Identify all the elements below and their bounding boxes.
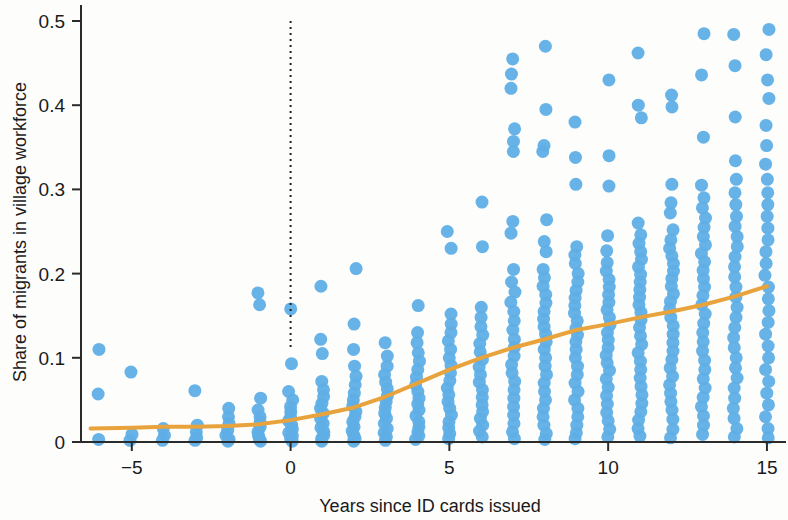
scatter-point: [476, 196, 489, 209]
scatter-point: [665, 89, 678, 102]
scatter-point: [760, 48, 773, 61]
scatter-point: [253, 298, 266, 311]
scatter-point: [760, 119, 773, 132]
scatter-point: [536, 145, 549, 158]
scatter-point: [505, 227, 518, 240]
scatter-point: [698, 27, 711, 40]
x-tick-label: 0: [285, 457, 296, 478]
x-axis-title: Years since ID cards issued: [319, 496, 540, 516]
scatter-point: [697, 131, 710, 144]
scatter-point: [569, 178, 582, 191]
scatter-point: [506, 215, 519, 228]
scatter-point: [539, 103, 552, 116]
y-tick-label: 0.4: [39, 95, 66, 116]
scatter-point: [762, 23, 775, 36]
scatter-point: [251, 286, 264, 299]
scatter-point: [759, 363, 772, 376]
scatter-point: [760, 139, 773, 152]
scatter-point: [729, 198, 742, 211]
scatter-point: [189, 434, 202, 447]
scatter-point: [730, 173, 743, 186]
scatter-point: [762, 316, 775, 329]
scatter-point: [729, 110, 742, 123]
scatter-point: [632, 217, 645, 230]
scatter-point: [761, 186, 774, 199]
scatter-point: [759, 328, 772, 341]
y-tick-label: 0.2: [39, 264, 65, 285]
x-tick-label: 15: [756, 457, 777, 478]
scatter-point: [602, 180, 615, 193]
x-tick-label: 5: [444, 457, 455, 478]
scatter-point: [729, 59, 742, 72]
scatter-point: [762, 375, 775, 388]
x-tick-label: 10: [598, 457, 619, 478]
scatter-point: [314, 280, 327, 293]
scatter-point: [762, 340, 775, 353]
scatter-point: [350, 262, 363, 275]
scatter-point: [635, 111, 648, 124]
scatter-point: [92, 388, 105, 401]
scatter-point: [602, 73, 615, 86]
scatter-point: [729, 154, 742, 167]
scatter-point: [760, 387, 773, 400]
scatter-point: [695, 68, 708, 81]
scatter-point: [316, 347, 329, 360]
scatter-point: [600, 244, 613, 257]
scatter-point: [507, 145, 520, 158]
scatter-point: [665, 178, 678, 191]
scatter-point: [508, 122, 521, 135]
scatter-point: [762, 292, 775, 305]
scatter-point: [445, 242, 458, 255]
scatter-point: [348, 318, 361, 331]
scatter-point: [762, 351, 775, 364]
scatter-point: [507, 263, 520, 276]
scatter-point: [601, 229, 614, 242]
scatter-point: [761, 173, 774, 186]
scatter-point: [569, 151, 582, 164]
scatter-point: [761, 222, 774, 235]
scatter-point: [695, 179, 708, 192]
scatter-point: [540, 213, 553, 226]
scatter-point: [632, 99, 645, 112]
scatter-point: [379, 434, 392, 447]
scatter-point: [314, 333, 327, 346]
scatter-point: [761, 198, 774, 211]
scatter-point: [508, 432, 521, 445]
scatter-point: [728, 186, 741, 199]
scatter-point: [759, 245, 772, 258]
scatter-point: [92, 433, 105, 446]
scatter-point: [409, 433, 422, 446]
scatter-point: [759, 158, 772, 171]
scatter-point: [761, 73, 774, 86]
scatter-point: [412, 299, 425, 312]
scatter-point: [538, 433, 551, 446]
y-tick-label: 0.1: [39, 348, 65, 369]
scatter-point: [569, 432, 582, 445]
scatter-point: [285, 357, 298, 370]
y-tick-label: 0: [54, 432, 65, 453]
y-tick-label: 0.3: [39, 179, 65, 200]
scatter-point: [762, 398, 775, 411]
scatter-point: [506, 52, 519, 65]
scatter-point: [762, 233, 775, 246]
scatter-point: [633, 430, 646, 443]
scatter-point: [540, 245, 553, 258]
scatter-point: [761, 210, 774, 223]
scatter-point: [347, 343, 360, 356]
scatter-point: [569, 116, 582, 129]
scatter-point: [92, 343, 105, 356]
plot-points-layer: [92, 23, 776, 448]
scatter-point: [603, 149, 616, 162]
scatter-point: [762, 92, 775, 105]
scatter-point: [696, 428, 709, 441]
x-tick-label: −5: [121, 457, 143, 478]
scatter-point: [760, 257, 773, 270]
scatter-point: [759, 410, 772, 423]
y-axis-title: Share of migrants in village workforce: [10, 82, 30, 382]
scatter-point: [124, 366, 137, 379]
scatter-point: [664, 206, 677, 219]
scatter-point: [379, 336, 392, 349]
scatter-point: [504, 82, 517, 95]
scatter-point: [632, 47, 645, 60]
scatter-point: [758, 269, 771, 282]
